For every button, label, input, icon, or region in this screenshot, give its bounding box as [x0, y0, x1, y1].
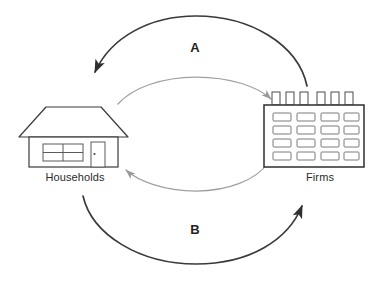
circular-flow-diagram: Households Firms A B — [0, 0, 392, 285]
factory-chimney — [345, 92, 353, 105]
flow-label-a: A — [160, 40, 230, 55]
factory-window — [321, 139, 339, 147]
factory-window — [273, 152, 291, 160]
factory-chimney — [331, 92, 339, 105]
node-label-households: Households — [0, 171, 150, 183]
flow-inner-upper-path — [118, 77, 271, 104]
factory-window — [297, 139, 315, 147]
factory-window — [344, 152, 359, 160]
factory-window — [297, 152, 315, 160]
flow-arrow-inner-upper — [118, 77, 271, 104]
factory-window — [273, 126, 291, 134]
factory-window — [273, 113, 291, 121]
house-door-knob — [93, 153, 95, 155]
factory-window — [344, 126, 359, 134]
factory-window — [297, 113, 315, 121]
factory-window — [273, 139, 291, 147]
factory-chimney — [286, 92, 294, 105]
house-door — [91, 142, 105, 167]
factory-chimney — [317, 92, 325, 105]
flow-label-b: B — [160, 222, 230, 237]
factory-window — [297, 126, 315, 134]
factory-chimney — [300, 92, 308, 105]
factory-icon — [264, 92, 364, 167]
factory-window — [344, 139, 359, 147]
factory-window — [321, 126, 339, 134]
factory-window — [321, 113, 339, 121]
factory-chimney — [272, 92, 280, 105]
node-label-firms: Firms — [250, 171, 390, 183]
factory-window — [321, 152, 339, 160]
factory-window — [344, 113, 359, 121]
house-icon — [19, 107, 128, 167]
house-roof — [19, 107, 128, 137]
